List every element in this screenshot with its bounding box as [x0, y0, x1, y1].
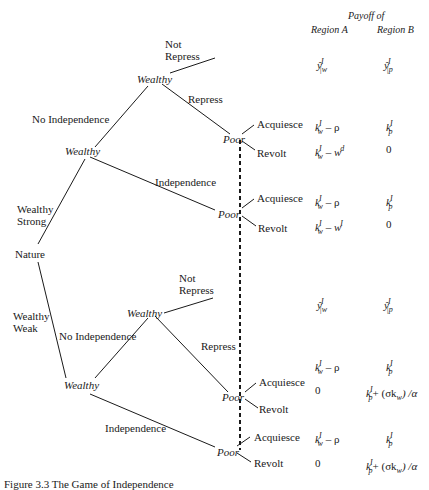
branch-revolt-3: Revolt — [259, 403, 288, 415]
payoff-a-3-tail: – ρ — [326, 196, 340, 208]
node-wealthy-strong-2: Wealthy — [137, 73, 172, 85]
payoff-b-3-sub: p — [389, 202, 393, 211]
branch-revolt-1: Revolt — [257, 147, 286, 159]
branch-acquiesce-4: Acquiesce — [254, 431, 300, 443]
payoff-b-7-tail: + (σk — [373, 387, 397, 399]
node-poor-strong-indep: Poor — [218, 208, 240, 220]
payoff-a-3: kIw – ρ — [315, 193, 339, 213]
payoff-a-3-sub: w — [318, 202, 323, 211]
branch-independence-top: Independence — [155, 176, 216, 188]
payoff-b-8: kIp — [386, 430, 393, 450]
payoff-a-2: kIw – wd — [315, 143, 344, 163]
payoff-a-8: kIw – ρ — [315, 430, 339, 450]
branch-wealthy-strong-line1: Wealthy — [17, 203, 53, 215]
payoff-b-1: kIp — [386, 118, 393, 138]
payoff-a-4: kIw – wI — [315, 218, 343, 238]
node-poor-strong-repress: Poor — [223, 133, 245, 145]
payoff-b-5: ŷI|p — [384, 296, 393, 316]
payoff-b-7-tail-end: ) /α — [402, 387, 417, 399]
payoff-a-5: ŷI|w — [317, 296, 327, 316]
branch-no-independence-top: No Independence — [32, 113, 109, 125]
payoff-b-5-sub: |p — [387, 305, 393, 314]
payoff-a-6-sub: w — [318, 367, 323, 376]
payoff-a-2-tail-sup: d — [340, 144, 344, 153]
payoff-a-1-sub: w — [318, 127, 323, 136]
node-poor-weak-repress: Poor — [222, 391, 244, 403]
payoff-b-6: kIp — [386, 358, 393, 378]
branch-wealthy-weak-line1: Wealthy — [13, 310, 49, 322]
payoff-b-7: kIp+ (σkw) /α — [366, 384, 417, 404]
payoff-a-1: kIw – ρ — [315, 118, 339, 138]
payoff-a-4-tail: – w — [326, 221, 342, 233]
figure-caption: Figure 3.3 The Game of Independence — [4, 478, 174, 490]
branch-wealthy-weak: Wealthy Weak — [13, 310, 49, 334]
payoff-b-0-sub: |p — [387, 65, 393, 74]
node-wealthy-weak-1: Wealthy — [64, 379, 99, 391]
payoff-a-7: 0 — [315, 384, 321, 396]
payoff-b-4: 0 — [386, 218, 392, 230]
branch-no-independence-bottom: No Independence — [59, 330, 136, 342]
payoff-b-9-tail: + (σk — [373, 460, 397, 472]
payoff-b-8-sub: p — [389, 439, 393, 448]
branch-independence-bottom: Independence — [105, 422, 166, 434]
region-a-header: Region A — [311, 24, 348, 35]
payoff-a-6-tail: – ρ — [326, 361, 340, 373]
branch-repress-top: Repress — [188, 93, 223, 105]
payoff-a-4-sub: w — [318, 227, 323, 236]
branch-revolt-2: Revolt — [258, 222, 287, 234]
branch-not-repress-bottom-line2: Repress — [179, 284, 214, 296]
branch-revolt-4: Revolt — [254, 457, 283, 469]
payoff-b-1-sub: p — [389, 127, 393, 136]
branch-not-repress-top-line1: Not — [165, 38, 200, 50]
payoff-a-2-tail: – w — [326, 146, 342, 158]
region-b-header: Region B — [377, 24, 414, 35]
payoff-a-4-tail-sup: I — [340, 219, 343, 228]
node-wealthy-strong-1: Wealthy — [65, 145, 100, 157]
payoff-a-1-tail: – ρ — [326, 121, 340, 133]
branch-acquiesce-3: Acquiesce — [259, 376, 305, 388]
payoff-a-8-tail: – ρ — [326, 433, 340, 445]
payoff-a-8-sub: w — [318, 439, 323, 448]
payoff-a-2-sub: w — [318, 152, 323, 161]
branch-wealthy-strong: Wealthy Strong — [17, 203, 53, 227]
branch-not-repress-bottom-line1: Not — [179, 272, 214, 284]
payoff-b-6-sub: p — [389, 367, 393, 376]
payoff-a-0-sub: |w — [320, 65, 328, 74]
branch-not-repress-bottom: Not Repress — [179, 272, 214, 296]
payoff-a-0: ŷI|w — [317, 56, 327, 76]
payoff-b-9: kIp+ (σkw) /α — [366, 457, 417, 477]
branch-acquiesce-1: Acquiesce — [257, 118, 303, 130]
node-nature: Nature — [15, 248, 45, 260]
payoff-a-6: kIw – ρ — [315, 358, 339, 378]
payoff-a-5-sub: |w — [320, 305, 328, 314]
payoff-b-2: 0 — [386, 143, 392, 155]
branch-not-repress-top-line2: Repress — [165, 50, 200, 62]
payoff-b-3: kIp — [386, 193, 393, 213]
node-poor-weak-indep: Poor — [217, 446, 239, 458]
branch-acquiesce-2: Acquiesce — [257, 192, 303, 204]
branch-repress-bottom: Repress — [201, 340, 236, 352]
branch-not-repress-top: Not Repress — [165, 38, 200, 62]
payoff-b-9-tail-end: ) /α — [402, 460, 417, 472]
branch-wealthy-strong-line2: Strong — [17, 215, 53, 227]
payoff-b-0: ŷI|p — [384, 56, 393, 76]
payoff-a-9: 0 — [315, 457, 321, 469]
node-wealthy-weak-2: Wealthy — [127, 307, 162, 319]
branch-wealthy-weak-line2: Weak — [13, 322, 49, 334]
payoff-header: Payoff of — [348, 10, 384, 21]
